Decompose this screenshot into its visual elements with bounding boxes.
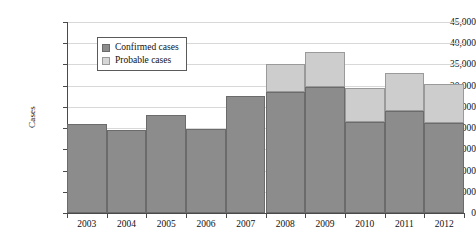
chart-legend: Confirmed casesProbable cases [97, 37, 187, 71]
bar-group [266, 22, 306, 213]
bar-segment-confirmed [146, 115, 186, 213]
legend-item[interactable]: Confirmed cases [102, 41, 179, 54]
x-axis-tick-label: 2006 [196, 219, 215, 230]
x-axis-tick-mark [226, 214, 227, 218]
bar-segment-confirmed [107, 130, 147, 213]
legend-swatch-probable [102, 57, 110, 65]
bar-group [385, 22, 425, 213]
x-axis-tick-mark [305, 214, 306, 218]
x-axis-tick-mark [186, 214, 187, 218]
x-axis-tick-label: 2012 [435, 219, 454, 230]
bar-segment-confirmed [385, 111, 425, 213]
bar-group [226, 22, 266, 213]
x-axis-tick-mark [464, 214, 465, 218]
bar-segment-confirmed [266, 92, 306, 213]
legend-item[interactable]: Probable cases [102, 54, 179, 67]
x-axis-tick-label: 2011 [395, 219, 414, 230]
bar-segment-probable [424, 84, 464, 123]
x-axis-tick-mark [385, 214, 386, 218]
x-axis-tick-mark [146, 214, 147, 218]
x-axis-tick-mark [67, 214, 68, 218]
x-axis: 2003200420052006200720082009201020112012 [67, 214, 465, 244]
bar-group [186, 22, 226, 213]
x-axis-tick-label: 2007 [236, 219, 255, 230]
bar-group [345, 22, 385, 213]
x-axis-tick-label: 2009 [316, 219, 335, 230]
y-axis-title: Cases [27, 87, 37, 147]
legend-swatch-confirmed [102, 44, 110, 52]
x-axis-tick-mark [266, 214, 267, 218]
bar-group [305, 22, 345, 213]
bar-segment-probable [345, 88, 385, 122]
bar-chart: Cases 05,00010,00015,00020,00025,00030,0… [0, 0, 476, 250]
x-axis-tick-mark [424, 214, 425, 218]
bar-segment-confirmed [226, 96, 266, 213]
x-axis-tick-label: 2008 [276, 219, 295, 230]
bar-group [424, 22, 464, 213]
x-axis-tick-mark [107, 214, 108, 218]
bar-segment-probable [305, 52, 345, 87]
legend-label: Confirmed cases [115, 42, 179, 53]
x-axis-tick-label: 2010 [355, 219, 374, 230]
bar-segment-probable [266, 64, 306, 92]
x-axis-tick-label: 2005 [157, 219, 176, 230]
bar-segment-confirmed [186, 129, 226, 213]
x-axis-tick-mark [345, 214, 346, 218]
x-axis-tick-label: 2003 [77, 219, 96, 230]
legend-label: Probable cases [115, 55, 171, 66]
bar-segment-confirmed [67, 124, 107, 213]
bar-segment-confirmed [305, 87, 345, 213]
x-axis-tick-label: 2004 [117, 219, 136, 230]
bar-segment-probable [385, 73, 425, 111]
bar-segment-confirmed [424, 123, 464, 213]
bar-segment-confirmed [345, 122, 385, 213]
